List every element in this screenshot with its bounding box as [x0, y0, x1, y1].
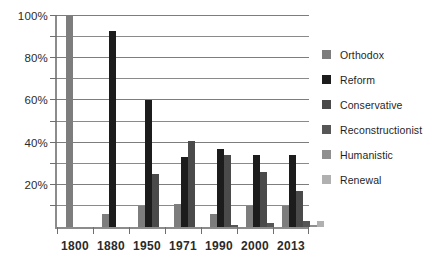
bar-group — [246, 16, 274, 227]
bar — [296, 191, 303, 227]
y-axis-tick — [50, 99, 57, 100]
legend-label: Conservative — [340, 99, 402, 111]
bar — [174, 204, 181, 227]
bar — [210, 214, 217, 227]
bar — [224, 155, 231, 227]
x-axis-label: 1800 — [61, 239, 89, 253]
bar-group — [66, 16, 73, 227]
bar — [102, 214, 109, 227]
chart-legend: OrthodoxReformConservativeReconstruction… — [322, 42, 438, 192]
x-axis-label: 1880 — [97, 239, 125, 253]
y-axis-tick — [50, 163, 57, 164]
x-axis-tick — [165, 227, 166, 234]
y-axis-tick — [50, 121, 57, 122]
bar — [282, 206, 289, 227]
bar-group — [138, 16, 159, 227]
legend-label: Renewal — [340, 174, 382, 186]
legend-swatch-icon — [322, 125, 331, 134]
y-axis-tick — [50, 142, 57, 143]
x-axis-tick — [93, 227, 94, 234]
legend-item[interactable]: Reform — [322, 67, 438, 92]
legend-swatch-icon — [322, 100, 331, 109]
y-axis-label: 60% — [24, 94, 48, 106]
x-axis-tick — [57, 227, 58, 234]
legend-swatch-icon — [322, 75, 331, 84]
x-axis-tick — [237, 227, 238, 234]
bar — [145, 100, 152, 227]
bar-group — [210, 16, 238, 227]
legend-label: Humanistic — [340, 149, 393, 161]
y-axis-tick — [50, 205, 57, 206]
legend-swatch-icon — [322, 50, 331, 59]
legend-item[interactable]: Orthodox — [322, 42, 438, 67]
bar-group — [102, 16, 116, 227]
y-axis-label: 100% — [18, 10, 48, 22]
y-axis-label: 20% — [24, 179, 48, 191]
x-axis-label: 2013 — [277, 239, 305, 253]
bar — [246, 206, 253, 227]
legend-item[interactable]: Reconstructionist — [322, 117, 438, 142]
x-axis-tick — [201, 227, 202, 234]
y-axis-label: 40% — [24, 137, 48, 149]
bar — [138, 206, 145, 227]
bar — [109, 31, 116, 227]
bar — [260, 172, 267, 227]
bar — [217, 149, 224, 227]
bar — [188, 141, 195, 228]
y-axis-label: 80% — [24, 52, 48, 64]
legend-item[interactable]: Humanistic — [322, 142, 438, 167]
legend-label: Reform — [340, 74, 375, 86]
bar-chart: 20%40%60%80%100% 18001880195019711990200… — [0, 0, 438, 257]
y-axis-tick — [50, 78, 57, 79]
x-axis-tick — [273, 227, 274, 234]
legend-label: Orthodox — [340, 49, 384, 61]
bar — [289, 155, 296, 227]
bar — [66, 16, 73, 227]
plot-wrapper: 20%40%60%80%100% 18001880195019711990200… — [0, 0, 320, 257]
legend-swatch-icon — [322, 150, 331, 159]
y-axis-tick — [50, 57, 57, 58]
y-axis-tick — [50, 36, 57, 37]
y-axis-tick — [50, 184, 57, 185]
bar — [253, 155, 260, 227]
x-axis-tick — [308, 227, 309, 234]
x-axis-tick — [129, 227, 130, 234]
bar-group — [282, 16, 324, 227]
plot-area: 20%40%60%80%100% 18001880195019711990200… — [55, 16, 309, 229]
x-axis-label: 1990 — [205, 239, 233, 253]
bar — [152, 174, 159, 227]
legend-item[interactable]: Renewal — [322, 167, 438, 192]
legend-swatch-icon — [322, 175, 331, 184]
x-axis-label: 2000 — [241, 239, 269, 253]
legend-item[interactable]: Conservative — [322, 92, 438, 117]
x-axis-label: 1971 — [169, 239, 197, 253]
bar-groups — [57, 16, 309, 227]
legend-label: Reconstructionist — [340, 124, 422, 136]
bar — [310, 225, 317, 227]
bar — [317, 221, 324, 227]
y-axis-tick — [50, 15, 57, 16]
x-axis-label: 1950 — [133, 239, 161, 253]
bar — [181, 157, 188, 227]
bar-group — [174, 16, 195, 227]
